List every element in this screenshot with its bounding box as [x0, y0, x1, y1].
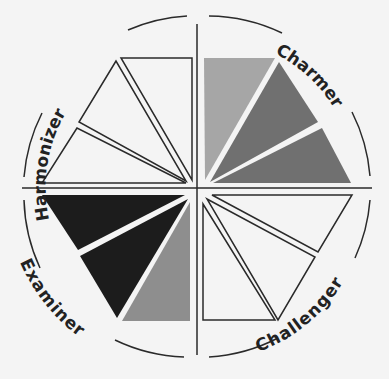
- label-challenger: Challenger: [252, 273, 347, 356]
- label-examiner: Examiner: [16, 255, 89, 340]
- style-wheel-diagram: Harmonizer Charmer Examiner Challenger: [0, 0, 389, 379]
